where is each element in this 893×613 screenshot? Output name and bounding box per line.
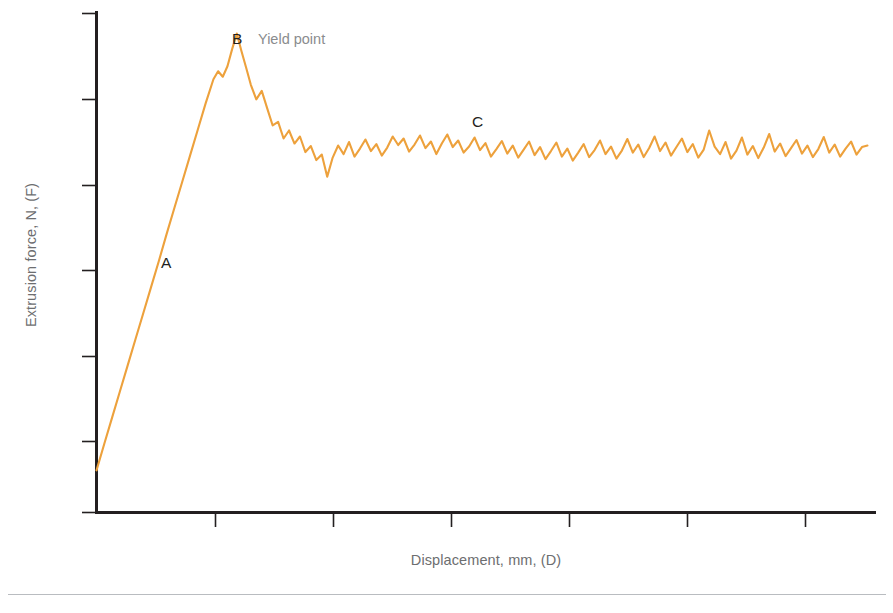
y-axis-ticks	[82, 14, 96, 513]
plot-canvas	[0, 0, 893, 613]
data-series-line	[97, 34, 868, 471]
x-axis-ticks	[216, 513, 806, 527]
data-label-b: B	[232, 30, 242, 48]
chart-figure: Extrusion force, N, (F) Displacement, mm…	[0, 0, 893, 613]
y-axis-title: Extrusion force, N, (F)	[23, 150, 39, 360]
x-axis-title: Displacement, mm, (D)	[96, 552, 876, 568]
footer-divider	[8, 594, 886, 595]
yield-point-annotation: Yield point	[258, 31, 325, 47]
data-label-c: C	[472, 113, 483, 131]
data-label-a: A	[161, 254, 171, 272]
